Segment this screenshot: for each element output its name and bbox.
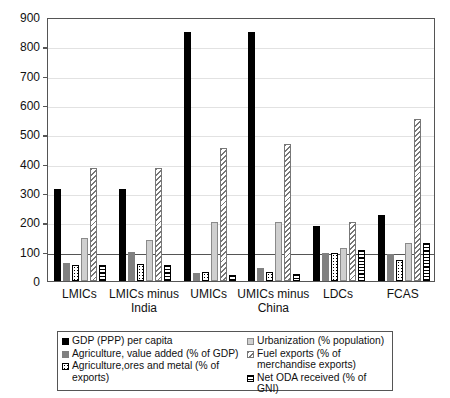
plot-area xyxy=(47,18,435,282)
bar-group xyxy=(242,19,307,281)
bar xyxy=(331,253,338,281)
bar xyxy=(284,144,291,281)
y-tick-label: 500 xyxy=(2,129,40,141)
bar xyxy=(423,243,430,281)
legend-swatch-icon xyxy=(62,338,69,345)
legend-label: GDP (PPP) per capita xyxy=(72,335,173,347)
bar xyxy=(81,238,88,281)
bar xyxy=(405,243,412,281)
bar-group xyxy=(48,19,113,281)
legend-item: Net ODA received (% of GNI) xyxy=(247,372,388,395)
y-tick-label: 200 xyxy=(2,217,40,229)
bar xyxy=(313,226,320,281)
legend-column-left: GDP (PPP) per capitaAgriculture, value a… xyxy=(62,335,247,390)
bar xyxy=(99,265,106,281)
bar xyxy=(275,222,282,281)
bar-group xyxy=(307,19,372,281)
bar xyxy=(54,189,61,281)
bar xyxy=(266,272,273,281)
bar-chart: 0100200300400500600700800900 LMICsLMICs … xyxy=(0,0,450,398)
bar xyxy=(63,263,70,281)
legend-item: GDP (PPP) per capita xyxy=(62,335,247,347)
y-tick-label: 900 xyxy=(2,12,40,24)
bar xyxy=(193,273,200,281)
legend-swatch-icon xyxy=(62,363,69,370)
bar xyxy=(378,215,385,281)
bar xyxy=(119,189,126,281)
legend-item: Urbanization (% population) xyxy=(247,335,388,347)
legend-swatch-icon xyxy=(62,351,69,358)
bar xyxy=(340,248,347,281)
bar-group xyxy=(113,19,178,281)
bar xyxy=(414,119,421,281)
bar xyxy=(257,268,264,281)
y-tick-label: 300 xyxy=(2,188,40,200)
legend-label: Urbanization (% population) xyxy=(257,335,384,347)
legend-label: Net ODA received (% of GNI) xyxy=(257,372,388,395)
bar xyxy=(211,222,218,281)
legend-label: Agriculture, value added (% of GDP) xyxy=(72,348,239,360)
bar xyxy=(293,274,300,281)
bar xyxy=(396,260,403,281)
legend-column-right: Urbanization (% population)Fuel exports … xyxy=(247,335,388,390)
legend-label: Fuel exports (% of merchandise exports) xyxy=(257,348,388,371)
bar xyxy=(90,168,97,281)
y-tick-label: 100 xyxy=(2,247,40,259)
y-tick-label: 800 xyxy=(2,41,40,53)
bar xyxy=(146,240,153,281)
legend: GDP (PPP) per capitaAgriculture, value a… xyxy=(57,331,393,391)
y-tick-label: 700 xyxy=(2,71,40,83)
bar xyxy=(164,265,171,281)
bar-group xyxy=(371,19,436,281)
bar-group xyxy=(177,19,242,281)
y-tick-label: 400 xyxy=(2,159,40,171)
legend-item: Fuel exports (% of merchandise exports) xyxy=(247,348,388,371)
bar xyxy=(202,272,209,281)
bar xyxy=(248,32,255,281)
x-tick-label: FCAS xyxy=(360,287,445,301)
legend-item: Agriculture, value added (% of GDP) xyxy=(62,348,247,360)
legend-swatch-icon xyxy=(247,351,254,358)
legend-swatch-icon xyxy=(247,338,254,345)
legend-swatch-icon xyxy=(247,375,254,382)
bar xyxy=(387,254,394,281)
bar xyxy=(72,265,79,281)
bar xyxy=(155,168,162,281)
legend-label: Agriculture,ores and metal (% of exports… xyxy=(72,360,247,383)
y-tick-label: 0 xyxy=(2,276,40,288)
bar xyxy=(349,222,356,281)
bar xyxy=(128,252,135,281)
bar xyxy=(137,264,144,281)
bar xyxy=(229,275,236,281)
bar xyxy=(220,148,227,281)
bar xyxy=(358,250,365,281)
legend-item: Agriculture,ores and metal (% of exports… xyxy=(62,360,247,383)
bar xyxy=(184,32,191,281)
y-tick-label: 600 xyxy=(2,100,40,112)
bar xyxy=(322,253,329,281)
